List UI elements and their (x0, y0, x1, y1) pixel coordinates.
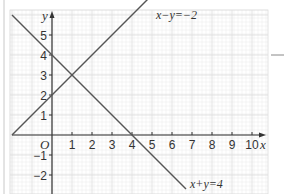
y-tick-label: 1 (40, 109, 47, 123)
x-tick-label: 5 (149, 138, 156, 152)
x-tick-label: 9 (229, 138, 236, 152)
line-label-x-minus-y: x−y=−2 (155, 8, 197, 22)
x-tick-label: 8 (209, 138, 216, 152)
line-label-x-plus-y: x+y=4 (189, 177, 223, 191)
y-tick-label: 4 (40, 49, 47, 63)
x-tick-label: 10 (245, 138, 259, 152)
x-tick-label: 4 (129, 138, 136, 152)
y-tick-label: 3 (40, 69, 47, 83)
x-tick-label: 2 (89, 138, 96, 152)
grid-minor (10, 10, 268, 194)
y-tick-label: −2 (33, 169, 47, 183)
x-axis-label: x (259, 137, 266, 152)
chart-canvas: 12345678910−2−112345 x y O x−y=−2 x+y=4 (0, 0, 284, 194)
x-tick-label: 3 (109, 138, 116, 152)
x-tick-label: 1 (69, 138, 76, 152)
x-tick-label: 7 (189, 138, 196, 152)
y-axis-label: y (40, 8, 48, 23)
origin-label: O (40, 137, 50, 152)
y-tick-label: 5 (40, 29, 47, 43)
x-tick-label: 6 (169, 138, 176, 152)
